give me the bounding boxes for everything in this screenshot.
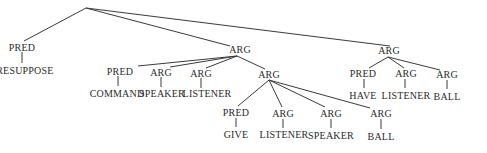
leaf-listener-2: LISTENER bbox=[260, 129, 309, 140]
leaf-command: COMMAND bbox=[90, 88, 145, 99]
node-pred-command: PRED bbox=[107, 66, 133, 77]
node-arg-give: ARG bbox=[258, 69, 280, 80]
node-arg-ball-2: ARG bbox=[436, 69, 458, 80]
node-pred-give: PRED bbox=[223, 107, 249, 118]
node-pred-presuppose: PRED bbox=[9, 42, 35, 53]
node-arg-command: ARG bbox=[229, 44, 251, 55]
leaf-listener: LISTENER bbox=[183, 88, 232, 99]
node-arg-speaker-2: ARG bbox=[320, 108, 342, 119]
node-arg-ball: ARG bbox=[370, 108, 392, 119]
leaf-have: HAVE bbox=[349, 90, 376, 101]
leaf-ball-2: BALL bbox=[434, 91, 461, 102]
leaf-give: GIVE bbox=[224, 129, 249, 140]
leaf-ball: BALL bbox=[368, 131, 395, 142]
node-pred-have: PRED bbox=[350, 68, 376, 79]
leaf-presuppose: PRESUPPOSE bbox=[0, 65, 54, 76]
node-arg-listener-2: ARG bbox=[272, 108, 294, 119]
leaf-listener-3: LISTENER bbox=[382, 90, 431, 101]
node-arg-listener-3: ARG bbox=[395, 68, 417, 79]
tree-diagram: PRED PRESUPPOSE ARG ARG PRED COMMAND ARG… bbox=[0, 0, 487, 153]
leaf-speaker-2: SPEAKER bbox=[308, 130, 354, 141]
node-arg-speaker: ARG bbox=[150, 67, 172, 78]
node-arg-listener: ARG bbox=[190, 68, 212, 79]
leaf-speaker: SPEAKER bbox=[139, 88, 185, 99]
node-arg-have: ARG bbox=[378, 45, 400, 56]
